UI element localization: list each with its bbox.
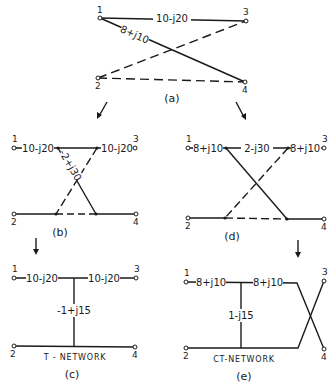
node-label-2: 2 (10, 349, 16, 359)
terminal-node-4 (322, 347, 326, 351)
caption-e: (e) (236, 370, 251, 383)
node-label-2: 2 (185, 221, 191, 231)
label-left-series: 10-j20 (26, 273, 58, 284)
terminal-node-1 (12, 146, 16, 150)
label-shunt: 1-j15 (228, 310, 253, 321)
terminal-node-3 (322, 146, 326, 150)
caption-a: (a) (164, 92, 179, 105)
node-label-4: 4 (132, 350, 138, 360)
network-name: T - NETWORK (43, 353, 107, 362)
label-left-series: 8+j10 (193, 143, 223, 154)
label-right-series: 8+j10 (290, 143, 320, 154)
branch-2-4-dashed (98, 78, 245, 82)
node-label-3: 3 (133, 134, 139, 144)
caption-d: (d) (224, 230, 240, 243)
panel-e: 8+j10 8+j10 1-j15 1 3 2 4 CT-NETWORK (e) (183, 267, 328, 383)
panel-a: 10-j20 8+j10 1 3 2 4 (a) (95, 5, 249, 120)
label-middle: 2-j30 (244, 143, 269, 154)
panel-c: 10-j20 10-j20 -1+j15 1 3 2 4 T - NETWORK… (10, 264, 140, 381)
label-branch-1-3: 10-j20 (156, 13, 188, 24)
node-label-1: 1 (97, 5, 103, 15)
label-cross: -2+j30 (57, 148, 83, 183)
arrow-down-left-icon (97, 102, 107, 119)
arrow-down-right-icon (236, 102, 246, 120)
node-label-2: 2 (183, 351, 189, 361)
terminal-node-1 (98, 16, 102, 20)
label-right-series: 8+j10 (253, 277, 283, 288)
node-label-1: 1 (186, 134, 192, 144)
terminal-node-1 (186, 146, 190, 150)
label-right-series: 10-j20 (88, 273, 120, 284)
node-label-1: 1 (12, 134, 18, 144)
node-label-4: 4 (133, 217, 139, 227)
terminal-node-1 (184, 280, 188, 284)
arrow-down-icon (295, 240, 301, 258)
network-name: CT-NETWORK (213, 355, 275, 364)
panel-d: 8+j10 2-j30 8+j10 1 3 2 4 (d) (185, 134, 328, 258)
terminal-node-3 (322, 279, 326, 283)
node-label-3: 3 (243, 7, 249, 17)
caption-c: (c) (65, 368, 80, 381)
node-label-2: 2 (11, 217, 17, 227)
node-label-3: 3 (322, 134, 328, 144)
network-transformation-diagram: 10-j20 8+j10 1 3 2 4 (a) 10-j20 10-j20 (0, 0, 336, 389)
label-left-series: 8+j10 (196, 277, 226, 288)
bottom-line (14, 346, 135, 347)
bottom-line-dashed (225, 218, 287, 219)
node-label-1: 1 (184, 268, 190, 278)
node-label-4: 4 (242, 85, 248, 95)
terminal-node-4 (322, 217, 326, 221)
terminal-node-3 (134, 276, 138, 280)
terminal-node-1 (12, 276, 16, 280)
panel-b: 10-j20 10-j20 -2+j30 1 3 2 4 (b) (11, 134, 139, 255)
label-shunt: -1+j15 (57, 305, 91, 316)
terminal-node-3 (133, 146, 137, 150)
node-label-3: 3 (134, 264, 140, 274)
terminal-node-2 (186, 216, 190, 220)
terminal-node-4 (133, 345, 137, 349)
terminal-node-3 (244, 19, 248, 23)
label-right-series: 10-j20 (101, 143, 133, 154)
node-label-4: 4 (321, 222, 327, 232)
label-branch-1-4: 8+j10 (119, 23, 151, 45)
terminal-node-4 (134, 212, 138, 216)
terminal-node-2 (12, 212, 16, 216)
node-label-4: 4 (321, 352, 327, 362)
node-label-2: 2 (95, 81, 101, 91)
label-left-series: 10-j20 (22, 143, 54, 154)
terminal-node-4 (243, 80, 247, 84)
caption-b: (b) (52, 226, 68, 239)
terminal-node-2 (96, 76, 100, 80)
node-label-1: 1 (12, 264, 18, 274)
arrow-down-icon (33, 238, 39, 255)
node-label-3: 3 (322, 267, 328, 277)
terminal-node-2 (184, 346, 188, 350)
terminal-node-2 (12, 344, 16, 348)
